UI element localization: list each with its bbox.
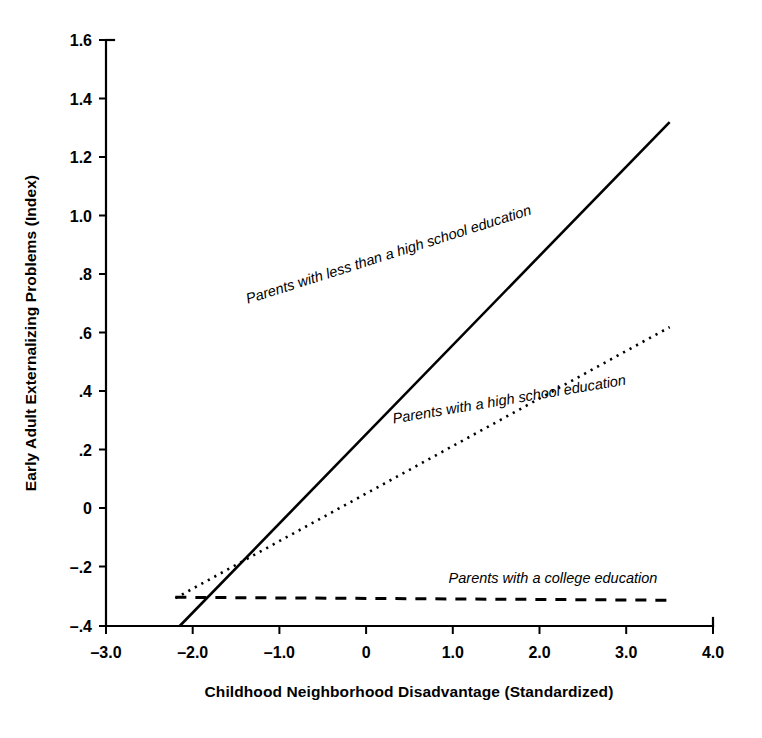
- y-tick-label: .8: [79, 266, 92, 283]
- y-tick-label: .4: [79, 383, 92, 400]
- series-label-less-than-high-school: Parents with less than a high school edu…: [244, 202, 533, 307]
- series-line-less-than-high-school: [180, 122, 670, 626]
- x-tick-label: 3.0: [615, 644, 637, 661]
- x-axis-title: Childhood Neighborhood Disadvantage (Sta…: [205, 683, 614, 700]
- y-tick-label: –.2: [70, 559, 92, 576]
- series-label-college: Parents with a college education: [449, 570, 658, 586]
- series-line-high-school: [175, 327, 669, 598]
- chart-canvas: 1.6 1.4 1.2 1.0 .8 .6 .4 .2 0 –.2 –.4 –3…: [0, 0, 762, 738]
- y-tick-label: 1.6: [70, 32, 92, 49]
- x-tick-labels: –3.0 –2.0 –1.0 0 1.0 2.0 3.0 4.0: [90, 644, 724, 661]
- series-lines: [175, 122, 669, 626]
- x-tick-marks: [106, 626, 713, 634]
- x-tick-label: –3.0: [90, 644, 121, 661]
- series-line-college: [175, 597, 669, 600]
- y-tick-labels: 1.6 1.4 1.2 1.0 .8 .6 .4 .2 0 –.2 –.4: [70, 32, 92, 635]
- y-tick-label: .6: [79, 325, 92, 342]
- x-tick-label: –1.0: [264, 644, 295, 661]
- y-tick-label: 0: [83, 500, 92, 517]
- x-tick-label: 1.0: [442, 644, 464, 661]
- series-label-high-school: Parents with a high school education: [391, 372, 627, 427]
- x-tick-label: 4.0: [702, 644, 724, 661]
- y-tick-label: 1.0: [70, 208, 92, 225]
- y-tick-label: .2: [79, 442, 92, 459]
- x-tick-label: 2.0: [528, 644, 550, 661]
- x-tick-label: 0: [362, 644, 371, 661]
- y-tick-label: –.4: [70, 618, 92, 635]
- y-tick-label: 1.4: [70, 91, 92, 108]
- y-axis-title: Early Adult Externalizing Problems (Inde…: [22, 175, 39, 491]
- y-tick-label: 1.2: [70, 149, 92, 166]
- chart-figure: 1.6 1.4 1.2 1.0 .8 .6 .4 .2 0 –.2 –.4 –3…: [0, 0, 762, 738]
- x-tick-label: –2.0: [177, 644, 208, 661]
